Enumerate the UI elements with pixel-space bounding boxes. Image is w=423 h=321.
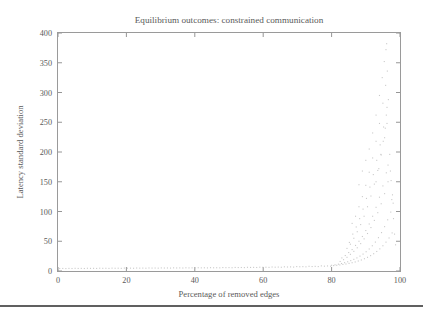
y-tick-label: 200 xyxy=(40,148,52,157)
data-point xyxy=(198,267,199,268)
data-point xyxy=(343,259,344,260)
data-point xyxy=(225,267,226,268)
data-point xyxy=(381,232,382,233)
data-point xyxy=(352,223,353,224)
data-point xyxy=(299,266,300,267)
y-axis-ticks: 050100150200250300350400 xyxy=(40,29,400,276)
data-point xyxy=(389,154,390,155)
data-point xyxy=(386,107,387,108)
data-point xyxy=(284,266,285,267)
data-point xyxy=(78,268,79,269)
data-point xyxy=(115,268,116,269)
data-point xyxy=(362,196,363,197)
data-point xyxy=(377,170,378,171)
data-point xyxy=(305,266,306,267)
data-point xyxy=(161,267,162,268)
data-point xyxy=(376,251,377,252)
data-point xyxy=(195,267,196,268)
data-point xyxy=(374,220,375,221)
data-point xyxy=(359,256,360,257)
data-point xyxy=(393,203,394,204)
data-point xyxy=(318,266,319,267)
data-point xyxy=(385,85,386,86)
data-point xyxy=(348,252,349,253)
data-point xyxy=(213,267,214,268)
data-point xyxy=(372,216,373,217)
data-point xyxy=(362,170,363,171)
data-point xyxy=(353,259,354,260)
scatter-chart: Equilibrium outcomes: constrained commun… xyxy=(0,0,423,321)
data-point xyxy=(358,241,359,242)
figure-container: Equilibrium outcomes: constrained commun… xyxy=(0,0,423,321)
data-point xyxy=(385,49,386,50)
data-point xyxy=(349,242,350,243)
data-point xyxy=(352,234,353,235)
data-point xyxy=(219,267,220,268)
data-points-layer xyxy=(59,43,396,269)
y-tick-label: 400 xyxy=(40,29,52,38)
data-point xyxy=(372,157,373,158)
data-point xyxy=(111,268,112,269)
data-point xyxy=(232,267,233,268)
data-point xyxy=(370,255,371,256)
y-tick-label: 250 xyxy=(40,118,52,127)
data-point xyxy=(376,207,377,208)
data-point xyxy=(96,268,97,269)
data-point xyxy=(352,249,353,250)
data-point xyxy=(355,216,356,217)
data-point xyxy=(385,128,386,129)
data-point xyxy=(363,209,364,210)
data-point xyxy=(81,268,82,269)
data-point xyxy=(362,236,363,237)
data-point xyxy=(357,231,358,232)
data-point xyxy=(388,99,389,100)
data-point xyxy=(338,264,339,265)
x-axis-ticks: 020406080100 xyxy=(56,33,406,285)
data-point xyxy=(265,267,266,268)
data-point xyxy=(384,61,385,62)
data-point xyxy=(365,185,366,186)
data-point xyxy=(278,267,279,268)
data-point xyxy=(364,258,365,259)
data-point xyxy=(391,180,392,181)
x-axis-label: Percentage of removed edges xyxy=(179,289,281,299)
x-tick-label: 20 xyxy=(122,276,130,285)
data-point xyxy=(108,268,109,269)
y-tick-label: 150 xyxy=(40,178,52,187)
data-point xyxy=(374,184,375,185)
data-point xyxy=(360,224,361,225)
data-point xyxy=(201,267,202,268)
data-point xyxy=(341,263,342,264)
data-point xyxy=(164,267,165,268)
data-point xyxy=(380,144,381,145)
data-point xyxy=(290,266,291,267)
data-point xyxy=(369,223,370,224)
data-point xyxy=(235,267,236,268)
data-point xyxy=(370,227,371,228)
data-point xyxy=(238,267,239,268)
x-tick-label: 0 xyxy=(56,276,60,285)
data-point xyxy=(387,181,388,182)
data-point xyxy=(241,267,242,268)
data-point xyxy=(392,232,393,233)
data-point xyxy=(344,262,345,263)
data-point xyxy=(352,262,353,263)
data-point xyxy=(382,77,383,78)
data-point xyxy=(353,238,354,239)
data-point xyxy=(367,206,368,207)
data-point xyxy=(373,253,374,254)
data-point xyxy=(281,267,282,268)
data-point xyxy=(287,266,288,267)
data-point xyxy=(369,248,370,249)
data-point xyxy=(275,267,276,268)
data-point xyxy=(372,245,373,246)
data-point xyxy=(393,218,394,219)
data-point xyxy=(118,268,119,269)
data-point xyxy=(324,266,325,267)
data-point xyxy=(394,234,395,235)
data-point xyxy=(148,267,149,268)
data-point xyxy=(192,267,193,268)
data-point xyxy=(359,218,360,219)
y-axis-label: Latency standard deviation xyxy=(15,105,25,199)
data-point xyxy=(105,268,106,269)
